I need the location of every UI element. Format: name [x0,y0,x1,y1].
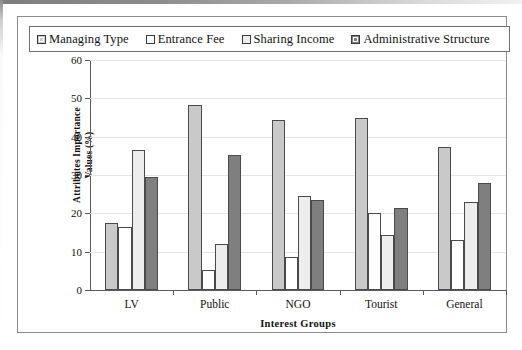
legend-swatch-icon [146,35,155,44]
bar-group [340,60,423,290]
bar [394,208,407,290]
bar [145,177,158,290]
x-axis-category-label: NGO [256,298,339,310]
bar [311,200,324,290]
x-axis-category-label: General [423,298,506,310]
scan-artifact-top-edge [0,0,522,4]
legend-item-label: Sharing Income [254,32,335,47]
y-axis-tick-label: 0 [77,284,83,296]
bar [118,227,131,290]
legend-swatch-icon [351,35,360,44]
bar [202,270,215,290]
bar [285,257,298,290]
x-axis-tick-mark [506,290,507,295]
bar-group [173,60,256,290]
x-axis-tick-mark [340,290,341,295]
bar-group [423,60,506,290]
x-axis-category-label: Public [173,298,256,310]
legend-swatch-icon [37,35,46,44]
legend-item: Sharing Income [242,32,335,47]
bar [215,244,228,290]
x-axis-tick-mark [256,290,257,295]
bar [272,120,285,290]
x-axis-tick-mark [173,290,174,295]
bar [464,202,477,290]
y-axis-tick-label: 60 [71,54,82,66]
scan-artifact-left-edge [0,0,3,350]
y-axis-tick-mark [85,290,90,291]
y-axis-tick-label: 10 [71,246,82,258]
legend-item: Administrative Structure [351,32,489,47]
legend-item: Managing Type [37,32,129,47]
plot-wrapper: Attributes Importance Values (%) 0102030… [17,55,507,350]
legend-item-label: Managing Type [49,32,129,47]
bar [451,240,464,290]
bar [228,155,241,290]
y-axis-tick-label: 40 [71,131,82,143]
bar [105,223,118,290]
x-axis-tick-mark [423,290,424,295]
y-axis-tick-label: 50 [71,92,82,104]
legend-item-label: Administrative Structure [363,32,489,47]
bar-group [256,60,339,290]
x-axis-category-label: Tourist [340,298,423,310]
bar [132,150,145,290]
chart-legend: Managing TypeEntrance FeeSharing IncomeA… [29,26,510,52]
legend-item: Entrance Fee [146,32,225,47]
legend-swatch-icon [242,35,251,44]
x-axis-category-label: LV [90,298,173,310]
bar [368,213,381,290]
y-axis-tick-label: 30 [71,169,82,181]
bar [355,118,368,291]
y-axis-tick-label: 20 [71,207,82,219]
chart-axes: 0102030405060 LVPublicNGOTouristGeneral [90,60,506,290]
bar [298,196,311,290]
legend-item-label: Entrance Fee [158,32,225,47]
bar [438,147,451,290]
bar [478,183,491,290]
bar [188,105,201,290]
bar [381,235,394,290]
bar-group [90,60,173,290]
x-axis-title: Interest Groups [90,318,506,329]
